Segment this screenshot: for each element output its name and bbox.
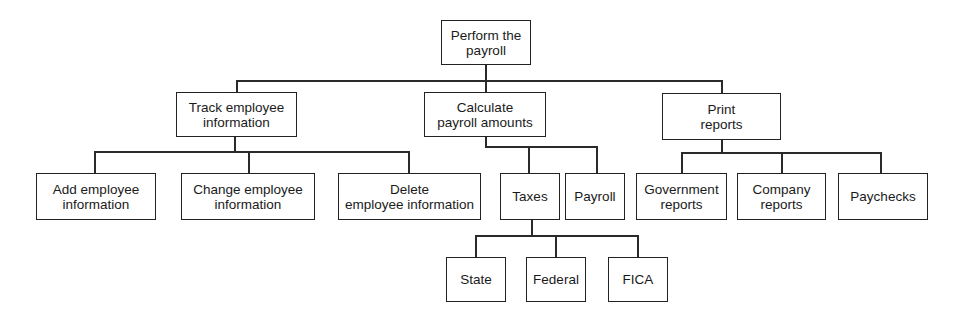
connector-to-taxes xyxy=(528,146,530,173)
connector-to-track xyxy=(236,80,238,92)
connector-taxes-down xyxy=(531,219,533,236)
node-track-employee-information: Track employee information xyxy=(176,92,297,137)
node-fica: FICA xyxy=(608,257,668,302)
connector-to-paychecks xyxy=(880,152,882,173)
connector-to-state xyxy=(475,235,477,257)
node-federal: Federal xyxy=(526,257,586,302)
node-payroll: Payroll xyxy=(565,173,625,220)
connector-to-add xyxy=(94,151,96,173)
connector-calculate-bus xyxy=(485,146,597,148)
connector-to-federal xyxy=(555,235,557,257)
connector-track-bus xyxy=(94,151,409,153)
connector-to-payroll xyxy=(596,146,598,173)
payroll-hierarchy-diagram: Perform the payroll Track employee infor… xyxy=(0,0,962,327)
connector-to-change xyxy=(248,151,250,173)
connector-to-company xyxy=(781,152,783,173)
node-delete-employee-information: Delete employee information xyxy=(338,173,481,220)
connector-to-calculate xyxy=(485,80,487,92)
node-print-reports: Print reports xyxy=(662,93,781,140)
connector-root-down xyxy=(485,64,487,81)
connector-to-delete xyxy=(408,151,410,173)
node-taxes: Taxes xyxy=(500,173,560,220)
connector-to-fica xyxy=(637,235,639,257)
connector-print-down xyxy=(721,139,723,152)
node-add-employee-information: Add employee information xyxy=(36,173,156,220)
connector-to-government xyxy=(681,152,683,173)
node-change-employee-information: Change employee information xyxy=(181,173,315,220)
connector-level1-bus xyxy=(236,80,722,82)
node-state: State xyxy=(446,257,506,302)
node-company-reports: Company reports xyxy=(737,173,826,220)
node-paychecks: Paychecks xyxy=(838,173,928,220)
connector-to-print xyxy=(721,80,723,93)
node-perform-the-payroll: Perform the payroll xyxy=(441,20,531,65)
node-government-reports: Government reports xyxy=(636,173,727,220)
connector-track-down xyxy=(234,136,236,152)
node-calculate-payroll-amounts: Calculate payroll amounts xyxy=(424,92,546,137)
